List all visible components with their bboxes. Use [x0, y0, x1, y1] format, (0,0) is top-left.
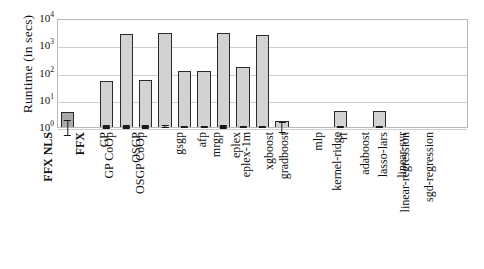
bar-slot — [77, 20, 96, 127]
x-axis-ticks: FFX NLSFFXGPGP CoOpOSGPOSGP CoOpgsgpafpm… — [57, 130, 468, 265]
error-bar — [184, 126, 185, 128]
bar-slot — [311, 20, 330, 127]
bar — [158, 33, 171, 127]
error-bar — [145, 125, 146, 128]
x-tick-label: afp — [196, 132, 208, 147]
bar-slot — [389, 20, 408, 127]
x-tick-label: FFX — [75, 132, 87, 155]
x-tick-label: eplex-1m — [240, 132, 252, 177]
x-tick-label: lasso-lars — [377, 132, 389, 177]
bar — [178, 71, 191, 127]
bar-slot — [155, 20, 174, 127]
bar — [334, 111, 347, 127]
bar — [197, 71, 210, 127]
y-tick-label: 103 — [20, 40, 54, 51]
error-bar — [262, 126, 263, 128]
error-bar — [242, 126, 243, 128]
bar-slot — [408, 20, 427, 127]
bar — [217, 33, 230, 127]
x-tick-label: linear-regression — [399, 132, 411, 212]
x-tick-label: xgboost — [263, 132, 275, 170]
bar-slot — [233, 20, 252, 127]
y-tick-label: 102 — [20, 68, 54, 79]
error-bar — [106, 125, 107, 128]
bar-slot — [292, 20, 311, 127]
bar — [236, 67, 249, 127]
bar-slot — [175, 20, 194, 127]
x-tick-label: adaboost — [359, 132, 371, 175]
plot-area — [57, 19, 468, 128]
x-tick-label: FFX NLS — [42, 132, 54, 182]
bar — [373, 111, 386, 127]
bar-slot — [58, 20, 77, 127]
x-tick-label: mlp — [312, 132, 324, 151]
error-bar — [164, 125, 165, 128]
bar — [275, 121, 288, 127]
bar — [100, 81, 113, 127]
bar-slot — [253, 20, 272, 127]
error-bar — [340, 126, 341, 129]
x-tick-label: sgd-regression — [423, 132, 435, 202]
error-bar — [125, 125, 126, 128]
bar — [61, 112, 74, 127]
bar — [256, 35, 269, 127]
bar — [120, 34, 133, 127]
x-tick-label: gradboost — [278, 132, 290, 179]
bar-slot — [447, 20, 466, 127]
bar-slot — [370, 20, 389, 127]
y-tick-label: 104 — [20, 13, 54, 24]
x-tick-label: kernel-ridge — [331, 132, 343, 191]
x-tick-label: OSGP CoOp — [134, 132, 146, 194]
bar — [139, 80, 152, 127]
x-tick-label: mrgp — [211, 132, 223, 157]
runtime-bar-chart: Runtime (in secs) 104103102101100 FFX NL… — [0, 0, 484, 269]
bar-slot — [116, 20, 135, 127]
x-tick-slot: gsgp — [174, 130, 194, 265]
bar-slot — [350, 20, 369, 127]
bar-slot — [428, 20, 447, 127]
x-tick-label: gsgp — [173, 132, 185, 155]
x-tick-slot: gradboost — [292, 130, 312, 265]
error-bar — [203, 126, 204, 128]
bar-series — [58, 20, 467, 127]
bar-slot — [272, 20, 291, 127]
bar-slot — [214, 20, 233, 127]
bar-slot — [97, 20, 116, 127]
x-tick-slot: FFX — [77, 130, 97, 265]
y-tick-label: 101 — [20, 95, 54, 106]
bar-slot — [331, 20, 350, 127]
x-tick-slot: mlp — [312, 130, 332, 265]
bar-slot — [194, 20, 213, 127]
error-bar — [379, 126, 380, 128]
bar-slot — [136, 20, 155, 127]
x-tick-slot: sgd-regression — [449, 130, 469, 265]
x-tick-label: GP CoOp — [102, 132, 114, 179]
error-bar — [223, 125, 224, 128]
